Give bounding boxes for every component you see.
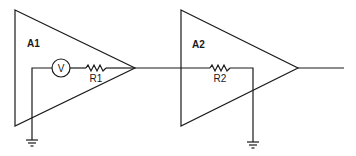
- resistor-r1-icon: [86, 65, 106, 71]
- wire-a1-ground: [32, 68, 52, 140]
- ground-icon: [247, 142, 259, 148]
- resistor-r1-label: R1: [90, 73, 103, 84]
- amplifier-a2-label: A2: [192, 39, 205, 50]
- wire-r2-ground: [230, 68, 253, 142]
- amplifier-a1-label: A1: [27, 38, 40, 49]
- ground-icon: [26, 140, 38, 146]
- resistor-r2-icon: [210, 65, 230, 71]
- circuit-diagram: A1 A2 V R1 R2: [0, 0, 356, 156]
- resistor-r2-label: R2: [214, 73, 227, 84]
- voltmeter-label: V: [58, 63, 65, 74]
